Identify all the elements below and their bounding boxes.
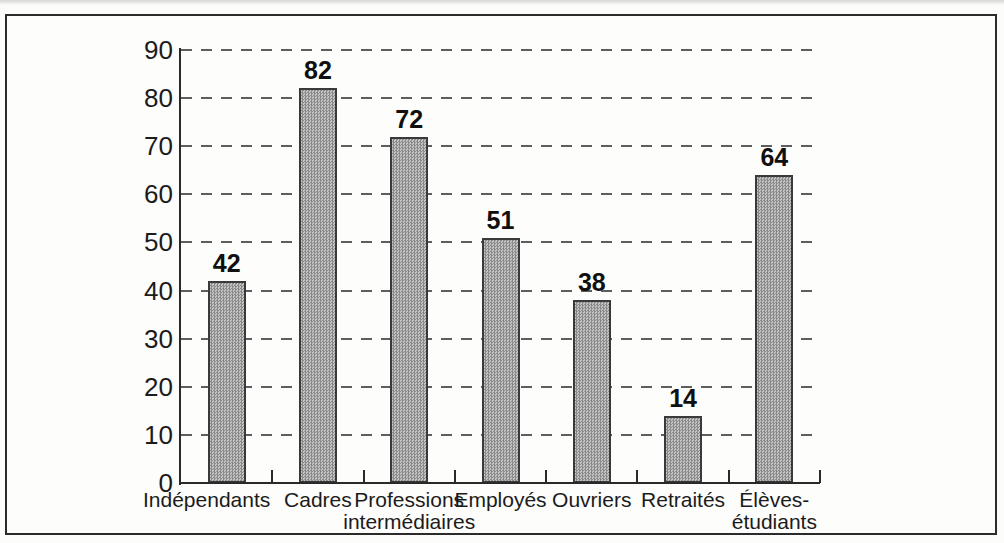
bar-value-label: 82 — [283, 57, 353, 83]
bar — [299, 88, 337, 483]
bar — [390, 137, 428, 483]
bar-value-label: 64 — [739, 144, 809, 170]
x-category-label-line: étudiants — [699, 511, 849, 533]
y-tick-label: 40 — [107, 278, 173, 305]
y-tick-label: 20 — [107, 374, 173, 401]
bar-value-label: 14 — [648, 385, 718, 411]
bar — [755, 175, 793, 483]
bar — [482, 238, 520, 483]
x-category-label: Élèves-étudiants — [699, 489, 849, 533]
gridline — [181, 193, 820, 195]
bar-value-label: 51 — [466, 207, 536, 233]
bar-value-label: 72 — [374, 106, 444, 132]
y-tick-label: 60 — [107, 181, 173, 208]
x-axis-line — [179, 482, 820, 484]
y-tick-label: 50 — [107, 229, 173, 256]
y-axis-line — [179, 48, 181, 485]
y-tick-label: 70 — [107, 133, 173, 160]
gridline — [181, 145, 820, 147]
gridline — [181, 49, 820, 51]
scanned-page: 010203040506070809042827251381464Indépen… — [0, 0, 1004, 543]
y-tick-label: 90 — [107, 37, 173, 64]
y-tick-label: 80 — [107, 85, 173, 112]
y-tick-label: 10 — [107, 422, 173, 449]
scan-edge-shadow — [0, 0, 1004, 5]
bar-value-label: 42 — [192, 250, 262, 276]
y-tick-label: 30 — [107, 326, 173, 353]
bar — [664, 416, 702, 483]
bar — [573, 300, 611, 483]
gridline — [181, 97, 820, 99]
bar — [208, 281, 246, 483]
bar-value-label: 38 — [557, 269, 627, 295]
x-category-label-line: Élèves- — [699, 489, 849, 511]
x-category-label-line: intermédiaires — [334, 511, 484, 533]
